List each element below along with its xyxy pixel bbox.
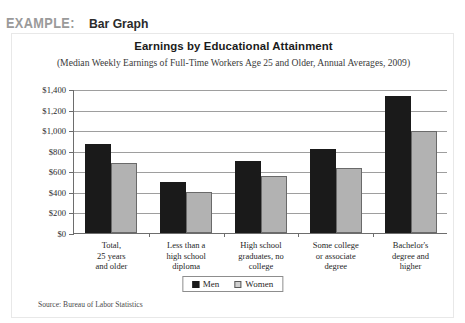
bar-men[interactable]	[310, 149, 336, 233]
x-axis-category-label: High schoolgraduates, nocollege	[219, 240, 303, 272]
y-axis-tick-label: $400	[49, 188, 66, 198]
bar-group	[224, 90, 299, 233]
y-axis-tick-label: $1,200	[42, 106, 66, 116]
category-label-line: Total,	[69, 240, 153, 251]
x-axis-tick	[298, 233, 299, 237]
bar-women[interactable]	[336, 168, 362, 233]
y-axis-tick-label: $200	[49, 208, 66, 218]
bar-women[interactable]	[111, 163, 137, 233]
legend-item-men[interactable]: Men	[192, 279, 220, 289]
category-label-line: diploma	[144, 261, 228, 272]
chart-subtitle: (Median Weekly Earnings of Full-Time Wor…	[12, 57, 455, 68]
bar-group	[373, 90, 448, 233]
category-label-line: Bachelor's	[369, 240, 453, 251]
x-axis-category-label: Some collegeor associatedegree	[294, 240, 378, 272]
chart-legend: MenWomen	[182, 276, 283, 292]
category-label-line: degree and	[369, 251, 453, 262]
category-label-line: or associate	[294, 251, 378, 262]
y-axis-tick-label: $0	[57, 229, 66, 239]
y-axis-tick-label: $800	[49, 147, 66, 157]
bar-group	[149, 90, 224, 233]
category-label-line: Less than a	[144, 240, 228, 251]
plot-area: $0$200$400$600$800$1,000$1,200$1,400 Tot…	[73, 90, 447, 234]
bar-group	[298, 90, 373, 233]
category-label-line: and older	[69, 261, 153, 272]
bar-men[interactable]	[85, 144, 111, 233]
bar-women[interactable]	[411, 131, 437, 233]
category-label-line: high school	[144, 251, 228, 262]
example-kind-label: Bar Graph	[89, 16, 148, 31]
bar-women[interactable]	[261, 176, 287, 233]
legend-swatch-icon	[234, 281, 241, 288]
legend-swatch-icon	[192, 281, 199, 288]
category-label-line: High school	[219, 240, 303, 251]
y-axis-tick-label: $600	[49, 167, 66, 177]
legend-item-women[interactable]: Women	[234, 279, 273, 289]
x-axis-category-label: Bachelor'sdegree andhigher	[369, 240, 453, 272]
example-label: EXAMPLE:	[6, 15, 75, 31]
category-label-line: higher	[369, 261, 453, 272]
category-label-line: Some college	[294, 240, 378, 251]
chart-figure: Earnings by Educational Attainment (Medi…	[11, 33, 454, 318]
legend-label: Men	[203, 279, 220, 289]
bar-men[interactable]	[160, 182, 186, 233]
category-label-line: graduates, no	[219, 251, 303, 262]
bar-men[interactable]	[385, 96, 411, 233]
example-header: EXAMPLE: Bar Graph	[6, 15, 155, 35]
source-note: Source: Bureau of Labor Statistics	[38, 300, 143, 309]
bar-women[interactable]	[186, 192, 212, 233]
category-label-line: 25 years	[69, 251, 153, 262]
x-axis-tick	[224, 233, 225, 237]
x-axis-tick	[149, 233, 150, 237]
category-label-line: degree	[294, 261, 378, 272]
y-axis-tick	[69, 234, 74, 235]
x-axis-tick	[373, 233, 374, 237]
category-label-line: college	[219, 261, 303, 272]
bar-group	[74, 90, 149, 233]
x-axis-category-label: Less than ahigh schooldiploma	[144, 240, 228, 272]
bar-men[interactable]	[235, 161, 261, 233]
y-axis-tick-label: $1,400	[42, 85, 66, 95]
legend-label: Women	[245, 279, 273, 289]
x-axis-category-label: Total,25 yearsand older	[69, 240, 153, 272]
y-axis-tick-label: $1,000	[42, 126, 66, 136]
chart-title: Earnings by Educational Attainment	[12, 40, 455, 52]
figure-page: EXAMPLE: Bar Graph Earnings by Education…	[0, 0, 465, 323]
